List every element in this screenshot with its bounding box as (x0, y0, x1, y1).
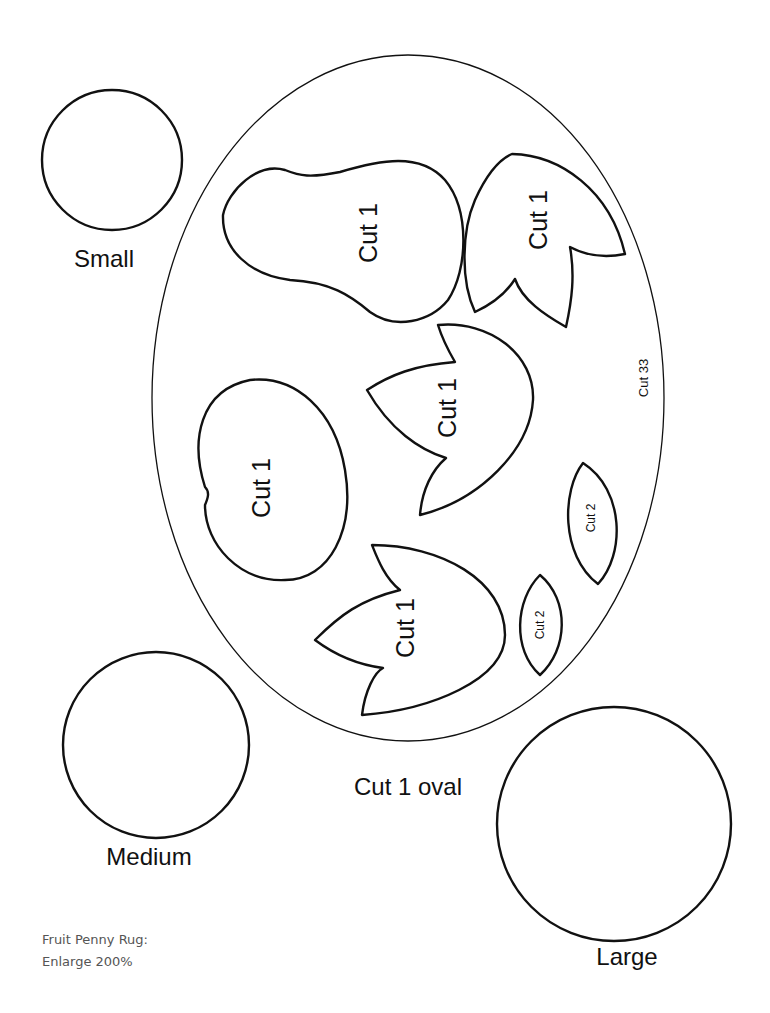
small-circle-pattern: Small (42, 90, 182, 272)
leaf-bottom-label: Cut 1 (391, 598, 419, 658)
small-leaf-left-label: Cut 2 (533, 610, 547, 639)
oval-label: Cut 1 oval (354, 773, 462, 800)
pattern-note: Fruit Penny Rug: Enlarge 200% (42, 932, 148, 969)
leaf-middle-label: Cut 1 (433, 378, 461, 438)
pear-label: Cut 1 (354, 203, 382, 263)
small-leaf-right-label: Cut 2 (584, 503, 598, 532)
large-circle-label: Large (596, 943, 657, 970)
medium-circle-label: Medium (106, 843, 191, 870)
small-circle-outline (42, 90, 182, 230)
pear-outline (223, 161, 463, 322)
leaf-bottom-pattern: Cut 1 (315, 545, 505, 715)
leaf-top-right-pattern: Cut 1 (464, 154, 625, 327)
apple-label: Cut 1 (247, 458, 275, 518)
medium-circle-pattern: Medium (63, 652, 249, 870)
small-leaf-right-pattern: Cut 2 (568, 463, 617, 584)
medium-circle-outline (63, 652, 249, 838)
large-circle-pattern: Large (497, 707, 731, 970)
leaf-middle-pattern: Cut 1 (367, 325, 533, 515)
large-circle-outline (497, 707, 731, 941)
pattern-sheet: Small Cut 33 Cut 1 oval Cut 1 Cut 1 Cut … (0, 0, 770, 1013)
note-enlarge: Enlarge 200% (42, 954, 133, 969)
apple-pattern: Cut 1 (199, 380, 348, 581)
pear-pattern: Cut 1 (223, 161, 463, 322)
note-title: Fruit Penny Rug: (42, 932, 148, 947)
leaf-top-right-label: Cut 1 (524, 190, 552, 250)
small-circle-label: Small (74, 245, 134, 272)
oval-side-label: Cut 33 (636, 359, 651, 397)
small-leaf-left-pattern: Cut 2 (520, 575, 562, 675)
